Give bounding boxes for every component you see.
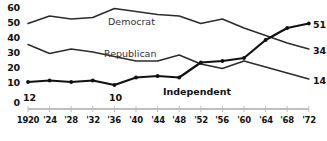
annotation-independent-min: 10 (109, 92, 122, 103)
series-line-independent (28, 24, 309, 86)
clipped-caption (4, 134, 244, 141)
x-tick-40: '40 (124, 115, 148, 125)
series-label-democrat: Democrat (108, 16, 155, 27)
series-label-independent: Independent (163, 86, 231, 97)
x-tick-72: '72 (297, 115, 321, 125)
x-tick-48: '48 (167, 115, 191, 125)
end-label-independent: 51 (313, 19, 326, 30)
x-tick-36: '36 (102, 115, 126, 125)
series-line-republican (28, 45, 309, 80)
x-tick-56: '56 (210, 115, 234, 125)
end-label-republican: 14 (313, 75, 326, 86)
x-tick-28: '28 (59, 115, 83, 125)
x-tick-60: '60 (232, 115, 256, 125)
series-label-republican: Republican (104, 48, 156, 59)
line-chart: 60 50 40 30 20 10 0 (0, 0, 327, 141)
end-label-democrat: 34 (313, 45, 326, 56)
x-tick-68: '68 (275, 115, 299, 125)
annotation-independent-start: 12 (23, 92, 36, 103)
series-line-democrat (28, 9, 309, 50)
